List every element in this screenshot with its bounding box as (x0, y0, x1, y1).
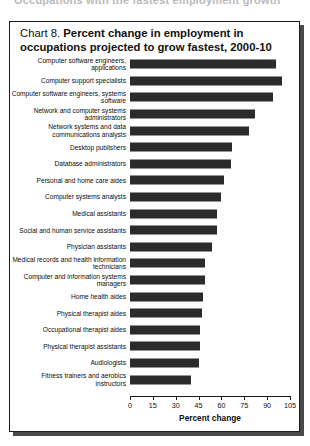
bar-row: Computer and information systems manager… (10, 272, 299, 289)
x-tick-label: 90 (263, 401, 271, 410)
category-label: Database administrators (10, 160, 130, 167)
x-tick-label: 105 (284, 401, 296, 410)
bar-row: Physician assistants (10, 239, 299, 256)
bar-row: Network and computer systems administrat… (10, 106, 299, 123)
bar (130, 325, 200, 334)
bar-track (130, 189, 299, 206)
bar-row: Computer software engineers, application… (10, 56, 299, 73)
x-tick-mark (153, 396, 154, 400)
category-label: Audiologists (10, 359, 130, 366)
bar (130, 358, 199, 367)
category-label: Fitness trainers and aerobics instructor… (10, 372, 130, 387)
bar-track (130, 288, 299, 305)
category-label: Physical therapist aides (10, 310, 130, 317)
category-label: Social and human service assistants (10, 227, 130, 234)
bar (130, 143, 232, 152)
bar-track (130, 305, 299, 322)
category-label: Network systems and data communications … (10, 123, 130, 138)
bar (130, 60, 276, 69)
bar (130, 292, 203, 301)
chart-number-label: Chart 8. (20, 27, 60, 39)
bar-track (130, 338, 299, 355)
bar (130, 259, 205, 268)
category-label: Computer and information systems manager… (10, 273, 130, 288)
category-label: Desktop publishers (10, 144, 130, 151)
bar-row: Social and human service assistants (10, 222, 299, 239)
category-label: Computer software engineers, systems sof… (10, 90, 130, 105)
bar-row: Physical therapist assistants (10, 338, 299, 355)
x-tick-mark (199, 396, 200, 400)
category-label: Physical therapist assistants (10, 343, 130, 350)
bar-row: Computer systems analysts (10, 189, 299, 206)
bar-track (130, 355, 299, 372)
bar (130, 110, 255, 119)
x-tick-label: 60 (217, 401, 225, 410)
bar-track (130, 122, 299, 139)
x-tick-mark (130, 396, 131, 400)
bar-track (130, 139, 299, 156)
plot-area: Computer software engineers, application… (10, 56, 299, 396)
x-tick-label: 45 (195, 401, 203, 410)
bar-track (130, 255, 299, 272)
bar-track (130, 172, 299, 189)
bar-row: Audiologists (10, 355, 299, 372)
top-cutoff-text-strip: Occupations with the fastest employment … (0, 0, 310, 9)
category-label: Computer systems analysts (10, 193, 130, 200)
category-label: Medical records and health information t… (10, 256, 130, 271)
category-label: Medical assistants (10, 210, 130, 217)
bar (130, 76, 282, 85)
category-label: Home health aides (10, 293, 130, 300)
bar (130, 193, 221, 202)
category-label: Network and computer systems administrat… (10, 107, 130, 122)
category-label: Personal and home care aides (10, 177, 130, 184)
bar-row: Desktop publishers (10, 139, 299, 156)
bar-row: Personal and home care aides (10, 172, 299, 189)
category-label: Computer software engineers, application… (10, 57, 130, 72)
bar-track (130, 272, 299, 289)
x-tick-label: 15 (149, 401, 157, 410)
bar-row: Physical therapist aides (10, 305, 299, 322)
category-label: Computer support specialists (10, 77, 130, 84)
bar-row: Fitness trainers and aerobics instructor… (10, 371, 299, 388)
bar (130, 309, 202, 318)
x-tick-label: 75 (240, 401, 248, 410)
bar (130, 159, 231, 168)
bar-track (130, 56, 299, 73)
bar (130, 276, 205, 285)
x-tick-mark (267, 396, 268, 400)
bar-row: Network systems and data communications … (10, 122, 299, 139)
bar (130, 93, 273, 102)
bar-track (130, 106, 299, 123)
x-tick-mark (221, 396, 222, 400)
chart-title: Chart 8. Percent change in employment in… (20, 27, 292, 54)
top-cutoff-text: Occupations with the fastest employment … (14, 0, 281, 6)
x-axis-ticks (130, 396, 290, 400)
bar-track (130, 222, 299, 239)
bar-track (130, 239, 299, 256)
bar (130, 209, 217, 218)
x-tick-mark (244, 396, 245, 400)
category-label: Occupational therapist aides (10, 326, 130, 333)
chart-frame: Chart 8. Percent change in employment in… (9, 21, 300, 432)
bar-track (130, 371, 299, 388)
x-tick-label: 0 (128, 401, 132, 410)
bar-track (130, 322, 299, 339)
x-tick-mark (176, 396, 177, 400)
x-axis-tick-labels: 0153045607590105 (130, 401, 290, 412)
bar-track (130, 205, 299, 222)
x-axis-title: Percent change (130, 413, 290, 423)
bar-track (130, 73, 299, 90)
bar-row: Medical assistants (10, 205, 299, 222)
bar-row: Medical records and health information t… (10, 255, 299, 272)
x-tick-label: 30 (172, 401, 180, 410)
bar (130, 176, 224, 185)
bar (130, 375, 191, 384)
x-tick-mark (290, 396, 291, 400)
bar-row: Computer support specialists (10, 73, 299, 90)
category-label: Physician assistants (10, 243, 130, 250)
bar (130, 126, 249, 135)
bar-row: Occupational therapist aides (10, 322, 299, 339)
bar-track (130, 156, 299, 173)
bar (130, 242, 212, 251)
bar-row: Computer software engineers, systems sof… (10, 89, 299, 106)
